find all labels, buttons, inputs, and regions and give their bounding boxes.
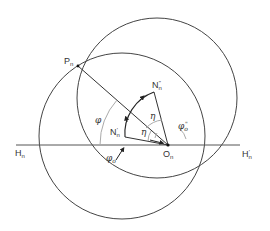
label-eta-upper: η xyxy=(150,112,155,121)
label-N-double-prime: Nn" xyxy=(152,80,161,91)
arc-eta-lower xyxy=(148,131,151,141)
point-O xyxy=(166,143,169,146)
circle-upper xyxy=(77,18,237,178)
label-eta-lower: η xyxy=(141,128,146,137)
label-phi: φ xyxy=(95,116,101,125)
label-phi-o-double: φo" xyxy=(178,121,188,132)
line-P-O xyxy=(78,66,168,145)
arc-phi xyxy=(100,100,117,145)
arc-eta-upper xyxy=(146,120,162,128)
circle-lower xyxy=(39,53,205,219)
line-O-N-prime xyxy=(125,137,168,145)
label-H-left: Hn xyxy=(15,149,25,159)
label-P: Pn xyxy=(64,57,73,67)
label-H-right: Hn' xyxy=(242,149,250,160)
line-O-N-double-prime xyxy=(154,92,168,145)
point-P xyxy=(77,65,80,68)
label-phi-o: φo xyxy=(106,154,116,164)
diagram-canvas xyxy=(0,0,270,231)
label-N-prime: Nn' xyxy=(110,127,118,138)
label-O: On xyxy=(163,150,173,160)
